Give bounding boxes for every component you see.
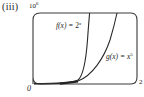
viewing-window-frame	[33, 13, 137, 84]
curve-g-label: g(x) = x5	[106, 52, 133, 61]
plot-area	[0, 0, 144, 97]
g-label-prefix: g(x) =	[106, 52, 127, 61]
f-label-exponent: x	[79, 21, 81, 26]
g-label-exponent: 5	[130, 52, 133, 57]
f-label-prefix: f(x) =	[56, 21, 75, 30]
curve-f-label: f(x) = 2x	[56, 21, 81, 30]
